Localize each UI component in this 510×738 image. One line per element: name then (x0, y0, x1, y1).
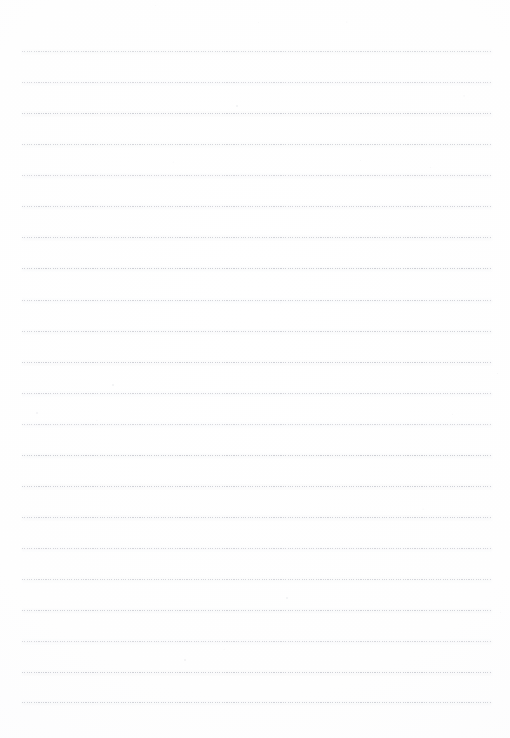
page-body-text[interactable] (22, 51, 492, 711)
scanned-page (0, 0, 510, 738)
top-margin-area (0, 0, 510, 51)
